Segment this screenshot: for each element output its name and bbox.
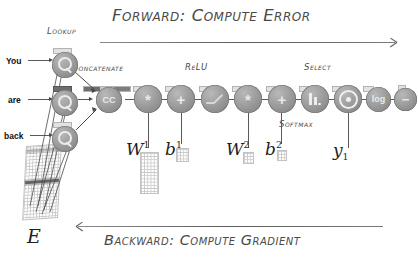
parameter-base-W2: W: [226, 139, 243, 159]
node-log[interactable]: log: [366, 87, 391, 112]
parameter-sup-b1: 1: [176, 139, 182, 150]
magnifier-icon: [57, 57, 74, 74]
label-lookup: Lookup: [47, 26, 76, 36]
parameter-base-W1: W: [126, 139, 143, 159]
forward-arrow-head: [388, 38, 397, 47]
node-glyph-add-1: +: [177, 92, 186, 107]
wire-you-lookup: [28, 60, 50, 61]
magnifier-icon: [57, 95, 74, 112]
target-icon: [339, 90, 358, 109]
node-multiply-1[interactable]: *: [134, 85, 162, 113]
parameter-label-b1: b1: [165, 139, 182, 159]
parameter-base-b1: b: [165, 139, 176, 159]
parameter-sup-W2: 2: [243, 139, 249, 150]
node-lookup-1[interactable]: [52, 52, 78, 78]
label-select: Select: [304, 62, 331, 72]
diagram-canvas: Forward: Compute Error Backward: Compute…: [0, 0, 418, 265]
backward-arrow-line: [78, 226, 383, 227]
node-softmax[interactable]: [301, 85, 329, 113]
label-softmax: Softmax: [279, 119, 313, 129]
node-select[interactable]: [334, 85, 362, 113]
node-lookup-2[interactable]: [52, 90, 78, 116]
input-word-you: You: [6, 56, 21, 66]
node-lookup-3[interactable]: [52, 126, 78, 152]
node-negate[interactable]: −: [394, 88, 417, 111]
node-glyph-concatenate: CC: [103, 96, 116, 105]
node-glyph-multiply-2: *: [245, 92, 251, 107]
forward-arrow: [100, 38, 395, 48]
parameter-label-y1: y1: [333, 140, 349, 162]
embedding-label: E: [27, 225, 41, 247]
magnifier-icon: [57, 131, 74, 148]
backward-arrow: [78, 222, 383, 232]
node-multiply-2[interactable]: *: [234, 85, 262, 113]
bars-icon: [309, 93, 321, 105]
label-concatenate: Concatenate: [72, 63, 124, 73]
parameter-sup-W1: 1: [143, 139, 149, 150]
backward-arrow-head: [76, 222, 85, 231]
parameter-label-b2: b2: [265, 139, 282, 159]
label-relu: ReLU: [185, 62, 208, 72]
node-relu[interactable]: [201, 85, 229, 113]
node-glyph-add-2: +: [278, 92, 287, 107]
node-glyph-negate: −: [402, 93, 410, 106]
node-add-1[interactable]: +: [167, 85, 195, 113]
input-word-back: back: [4, 131, 23, 141]
backward-title: Backward: Compute Gradient: [104, 232, 300, 248]
forward-arrow-line: [100, 42, 395, 43]
input-word-are: are: [8, 95, 21, 105]
parameter-base-b2: b: [265, 139, 276, 159]
parameter-label-W2: W2: [226, 139, 249, 159]
arrowhead-concat-in: [89, 97, 93, 101]
node-concatenate[interactable]: CC: [96, 87, 122, 113]
node-glyph-multiply-1: *: [145, 92, 151, 107]
parameter-base-y1: y: [333, 140, 343, 160]
node-glyph-log: log: [372, 95, 386, 104]
node-add-2[interactable]: +: [268, 85, 296, 113]
parameter-sub-y1: 1: [343, 151, 349, 162]
forward-title: Forward: Compute Error: [112, 6, 311, 25]
wire-back-lookup: [30, 135, 50, 136]
parameter-label-W1: W1: [126, 139, 149, 159]
parameter-sup-b2: 2: [276, 139, 282, 150]
wire-are-lookup: [28, 99, 50, 100]
relu-icon: [206, 93, 224, 105]
